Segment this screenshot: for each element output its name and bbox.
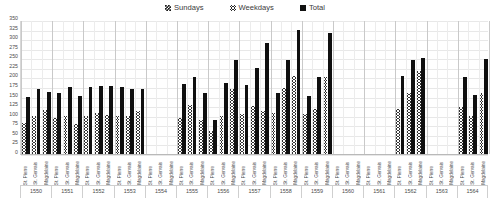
category-tick-label: St. Pierre: [335, 166, 340, 185]
legend-item-total: Total: [300, 4, 325, 12]
category-tick-label: St. Gervais: [33, 162, 38, 185]
category-axis: St. PierreSt. GervaisMagdelaineSt. Pierr…: [20, 156, 488, 185]
category-tick-label: St. Gervais: [158, 162, 163, 185]
solid-swatch-icon: [300, 5, 306, 11]
year-tick-label: 1553: [114, 185, 145, 198]
y-tick-label: 325: [0, 25, 18, 30]
bar-total: [68, 87, 72, 154]
bar-total: [89, 87, 93, 154]
year-tick-label: 1556: [207, 185, 238, 198]
y-tick-label: 25: [0, 140, 18, 145]
y-tick-label: 125: [0, 102, 18, 107]
category-tick-label: Magdelaine: [325, 161, 330, 185]
year-tick-label: 1555: [176, 185, 207, 198]
category-tick-label: St. Gervais: [127, 162, 132, 185]
y-tick-label: 225: [0, 63, 18, 68]
category-tick-label: St. Pierre: [241, 166, 246, 185]
bar-total: [203, 93, 207, 154]
bar-total: [224, 83, 228, 154]
category-tick-label: Magdelaine: [231, 161, 236, 185]
category-tick-label: St. Gervais: [345, 162, 350, 185]
legend-item-sundays: Sundays: [165, 4, 204, 12]
year-tick-label: 1554: [145, 185, 176, 198]
bar-total: [182, 84, 186, 154]
category-tick-label: Magdelaine: [106, 161, 111, 185]
year-tick-label: 1558: [270, 185, 301, 198]
category-tick-label: St. Gervais: [314, 162, 319, 185]
plot-area: [20, 21, 488, 155]
category-tick-label: Magdelaine: [418, 161, 423, 185]
category-tick-label: Magdelaine: [169, 161, 174, 185]
legend-label-weekdays: Weekdays: [239, 4, 274, 12]
category-tick-label: St. Pierre: [460, 166, 465, 185]
category-tick-label: St. Pierre: [366, 166, 371, 185]
bar-total: [109, 86, 113, 154]
year-tick-label: 1563: [426, 185, 457, 198]
category-tick-label: Magdelaine: [356, 161, 361, 185]
category-tick-label: Magdelaine: [387, 161, 392, 185]
category-tick-label: St. Pierre: [273, 166, 278, 185]
category-tick-label: St. Gervais: [283, 162, 288, 185]
category-tick-label: Magdelaine: [44, 161, 49, 185]
bar-total: [411, 60, 415, 154]
y-tick-label: 275: [0, 44, 18, 49]
bar-total: [37, 89, 41, 154]
bar-total: [213, 120, 217, 154]
category-tick-label: St. Gervais: [408, 162, 413, 185]
bar-total: [421, 58, 425, 154]
y-tick-label: 200: [0, 73, 18, 78]
bar-total: [473, 95, 477, 154]
category-tick-label: St. Pierre: [210, 166, 215, 185]
category-tick-label: St. Gervais: [221, 162, 226, 185]
category-tick-label: Magdelaine: [200, 161, 205, 185]
bar-total: [130, 89, 134, 154]
year-tick-label: 1557: [238, 185, 269, 198]
bar-total: [245, 85, 249, 154]
bar-total: [307, 96, 311, 154]
category-tick-label: St. Pierre: [85, 166, 90, 185]
year-tick-label: 1550: [20, 185, 51, 198]
category-tick-label: St. Pierre: [148, 166, 153, 185]
bar-total: [120, 87, 124, 154]
legend-label-sundays: Sundays: [174, 4, 204, 12]
y-tick-label: 250: [0, 54, 18, 59]
bar-total: [255, 68, 259, 154]
y-tick-label: 75: [0, 121, 18, 126]
checkered-swatch-icon: [165, 5, 171, 11]
bar-total: [141, 89, 145, 154]
category-tick-label: St. Pierre: [179, 166, 184, 185]
year-tick-label: 1564: [457, 185, 488, 198]
category-tick-label: St. Pierre: [23, 166, 28, 185]
bar-total: [297, 30, 301, 154]
bar-total: [57, 93, 61, 154]
year-tick-label: 1562: [394, 185, 425, 198]
year-tick-label: 1559: [301, 185, 332, 198]
year-tick-label: 1551: [51, 185, 82, 198]
category-tick-label: St. Pierre: [54, 166, 59, 185]
category-tick-label: St. Pierre: [429, 166, 434, 185]
bar-total: [484, 59, 488, 154]
bar-series-container: [21, 21, 488, 154]
y-tick-label: 100: [0, 111, 18, 116]
y-tick-label: 50: [0, 130, 18, 135]
bar-total: [276, 93, 280, 154]
category-tick-label: Magdelaine: [75, 161, 80, 185]
category-tick-label: St. Gervais: [189, 162, 194, 185]
bar-total: [47, 92, 51, 154]
legend-label-total: Total: [309, 4, 325, 12]
year-axis: 1550155115521553155415551556155715581559…: [20, 185, 488, 200]
category-tick-label: St. Pierre: [117, 166, 122, 185]
bar-total: [234, 60, 238, 154]
category-tick-label: Magdelaine: [137, 161, 142, 185]
category-tick-label: St. Gervais: [65, 162, 70, 185]
category-tick-label: Magdelaine: [262, 161, 267, 185]
y-axis: 0255075100125150175200225250275300325350: [0, 18, 18, 158]
y-tick-label: 300: [0, 35, 18, 40]
category-tick-label: St. Pierre: [304, 166, 309, 185]
chart-legend: Sundays Weekdays Total: [0, 1, 490, 14]
bar-total: [78, 96, 82, 154]
category-tick-label: St. Gervais: [252, 162, 257, 185]
category-tick-label: St. Gervais: [96, 162, 101, 185]
bar-total: [265, 43, 269, 154]
bar-total: [99, 86, 103, 154]
